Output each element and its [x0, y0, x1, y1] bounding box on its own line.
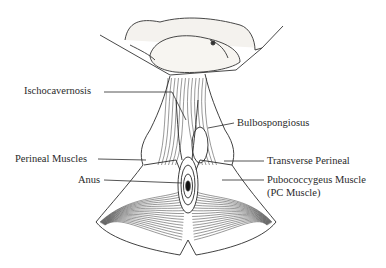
label-anus: Anus — [78, 174, 100, 186]
pelvic-floor-illustration — [0, 0, 386, 268]
fiber-left — [104, 220, 182, 234]
leader-bulbospongiosus — [208, 123, 234, 128]
anus-opening — [186, 181, 190, 191]
label-perineal-muscles: Perineal Muscles — [15, 153, 87, 165]
label-transverse-perineal: Transverse Perineal — [267, 155, 350, 167]
label-bulbospongiosus: Bulbospongiosus — [237, 117, 309, 129]
anatomy-diagram: Ischocavernosis Bulbospongiosus Perineal… — [0, 0, 386, 268]
leader-perineal-muscles — [98, 159, 146, 160]
label-ischocavernosis: Ischocavernosis — [24, 85, 91, 97]
label-pc-muscle-abbrev: (PC Muscle) — [267, 187, 320, 199]
fiber-upper — [158, 78, 168, 165]
upper-organ-mass — [100, 18, 283, 75]
leader-anus — [104, 180, 182, 183]
label-pc-muscle: Pubococcygeus Muscle — [267, 174, 366, 186]
